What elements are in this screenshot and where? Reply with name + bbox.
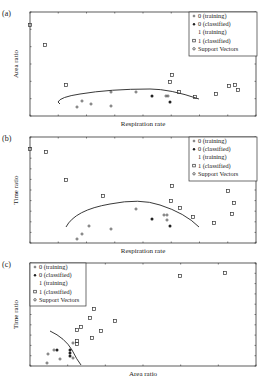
support-vector-marker [93, 308, 96, 311]
training-marker [87, 224, 90, 227]
support-vector-marker [76, 343, 79, 346]
support-vector-marker [215, 93, 218, 96]
support-vector-marker [65, 179, 68, 182]
support-vector-marker [169, 81, 172, 84]
training-marker [71, 341, 74, 344]
legend-entry: 1 (classified) [198, 162, 231, 170]
support-vector-marker [76, 340, 79, 343]
panel-label: (b) [2, 134, 12, 143]
x-axis-label: Respiration rate [121, 247, 166, 255]
support-vector-marker [44, 44, 47, 47]
training-marker [134, 207, 137, 210]
legend-entry: 0 (classified) [39, 271, 72, 279]
legend-entry: 1 (classified) [39, 288, 72, 296]
training-marker [134, 90, 137, 93]
support-vector-marker [227, 190, 230, 193]
legend-entry: 0 (training) [39, 263, 68, 271]
support-vector-marker [91, 337, 94, 340]
training-marker [165, 213, 168, 216]
support-vector-marker [45, 151, 48, 154]
classified-marker [69, 349, 72, 352]
training-marker [58, 357, 61, 360]
support-vector-marker [114, 320, 117, 323]
support-vector-marker [89, 317, 92, 320]
legend: 0 (training)0 (classified)1 (training)1 … [189, 12, 257, 56]
chart-panel-b: (b)Respiration rateTime ratio0 (training… [2, 134, 257, 255]
classified-marker [69, 352, 72, 355]
support-vector-marker [228, 85, 231, 88]
y-axis-label: Time ratio [12, 175, 20, 205]
legend: 0 (training)0 (classified)1 (training)1 … [30, 263, 86, 306]
training-marker [45, 361, 48, 364]
x-axis-label: Respiration rate [121, 120, 166, 128]
support-vector-marker [192, 216, 195, 219]
training-marker [75, 105, 78, 108]
legend-classified-icon [193, 148, 195, 150]
support-vector-marker [224, 272, 227, 275]
classified-marker [169, 225, 172, 228]
classified-marker [169, 101, 172, 104]
legend-entry: 0 (classified) [198, 20, 231, 28]
legend-classified-icon [193, 23, 195, 25]
panel-label: (a) [2, 9, 11, 18]
training-marker [75, 237, 78, 240]
classified-marker [151, 218, 154, 221]
support-vector-marker [231, 213, 234, 216]
training-marker [46, 352, 49, 355]
support-vector-marker [102, 195, 105, 198]
decision-boundary [58, 89, 199, 104]
training-marker [162, 213, 165, 216]
legend-entry: Support Vectors [198, 170, 239, 177]
support-vector-marker [171, 185, 174, 188]
decision-boundary [66, 201, 199, 227]
training-marker [109, 227, 112, 230]
chart-panel-a: (a)Respiration rateArea ratio0 (training… [2, 9, 257, 128]
support-vector-marker [237, 89, 240, 92]
training-marker [109, 104, 112, 107]
support-vector-marker [213, 222, 216, 225]
training-marker [80, 99, 83, 102]
training-marker [71, 356, 74, 359]
training-marker [80, 232, 83, 235]
chart-panel-c: (c)Area ratioTime ratio0 (training)0 (cl… [2, 260, 256, 378]
training-marker [165, 218, 168, 221]
support-vector-marker [170, 200, 173, 203]
figure: (a)Respiration rateArea ratio0 (training… [0, 0, 267, 390]
support-vector-marker [100, 330, 103, 333]
classified-marker [56, 349, 59, 352]
classified-marker [151, 95, 154, 98]
legend-entry: 0 (classified) [198, 145, 231, 153]
legend-entry: 1 (training) [39, 279, 68, 287]
support-vector-marker [234, 84, 237, 87]
legend-classified-icon [34, 274, 36, 276]
legend: 0 (training)0 (classified)1 (training)1 … [189, 137, 257, 181]
training-marker [52, 348, 55, 351]
legend-entry: Support Vectors [39, 296, 80, 303]
x-axis-label: Area ratio [129, 370, 158, 378]
support-vector-marker [171, 74, 174, 77]
y-axis-label: Area ratio [12, 49, 20, 78]
support-vector-marker [233, 202, 236, 205]
legend-entry: 1 (training) [198, 153, 227, 161]
support-vector-marker [76, 329, 79, 332]
legend-entry: 0 (training) [198, 12, 227, 20]
legend-entry: 0 (training) [198, 137, 227, 145]
support-vector-marker [80, 326, 83, 329]
legend-entry: 1 (training) [198, 28, 227, 36]
decision-boundary [50, 331, 81, 365]
panel-label: (c) [2, 260, 11, 269]
support-vector-marker [179, 275, 182, 278]
training-marker [89, 102, 92, 105]
y-axis-label: Time ratio [12, 299, 20, 329]
legend-entry: 1 (classified) [198, 37, 231, 45]
classified-marker [69, 355, 72, 358]
legend-entry: Support Vectors [198, 45, 239, 52]
training-marker [166, 94, 169, 97]
support-vector-marker [65, 84, 68, 87]
support-vector-marker [179, 207, 182, 210]
